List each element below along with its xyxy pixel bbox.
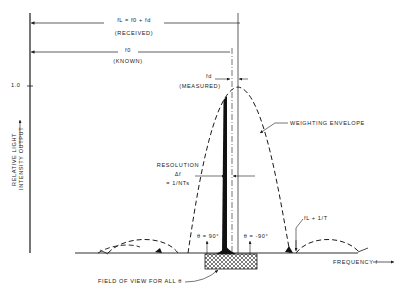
sidelobe-marker-label: fL + 1/T	[304, 216, 328, 222]
measured-formula: fd	[206, 74, 212, 80]
envelope-label: WEIGHTING ENVELOPE	[290, 121, 365, 127]
known-formula: f0	[125, 48, 131, 54]
weighting-envelope	[188, 87, 290, 253]
field-of-view-region	[205, 254, 257, 269]
resolution-line1: RESOLUTION	[157, 163, 199, 169]
doppler-frequency-diagram: fL = f0 + fd (RECEIVED) f0 (KNOWN) fd (M…	[0, 0, 410, 292]
theta-pos-label: θ = 90°	[197, 234, 219, 240]
y-axis-label-line2: INTENSITY OUTPUT	[19, 127, 25, 190]
field-of-view-label: FIELD OF VIEW FOR ALL θ	[98, 279, 182, 285]
y-axis-label-line1: RELATIVE LIGHT	[12, 133, 18, 186]
received-note: (RECEIVED)	[115, 31, 153, 37]
x-axis-label: FREQUENCY f	[333, 260, 378, 266]
resolution-line3: = 1/NTs	[166, 181, 189, 187]
theta-neg-label: θ = -90°	[244, 234, 269, 240]
known-note: (KNOWN)	[113, 59, 142, 65]
measured-note: (MEASURED)	[179, 84, 220, 90]
y-tick-label: 1.0	[11, 83, 21, 89]
resolution-line2: Δf	[175, 172, 182, 178]
diagram-graphics	[0, 0, 410, 292]
signal-bar	[222, 96, 227, 253]
received-formula: fL = f0 + fd	[117, 18, 151, 24]
